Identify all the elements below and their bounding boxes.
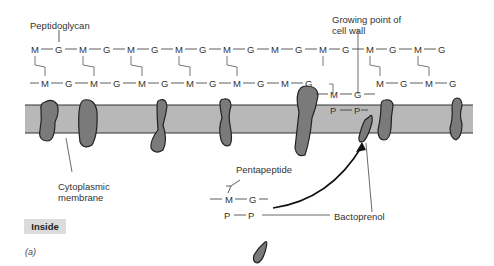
- peptidoglycan-label: Peptidoglycan: [30, 20, 90, 31]
- growing-point-label-line2: cell wall: [332, 25, 365, 36]
- svg-text:M: M: [271, 44, 279, 55]
- bactoprenol-carrier-free: [253, 242, 266, 263]
- svg-text:G: G: [65, 78, 72, 89]
- svg-text:M: M: [319, 44, 327, 55]
- svg-text:M: M: [79, 44, 87, 55]
- svg-text:M: M: [175, 44, 183, 55]
- svg-text:G: G: [247, 44, 254, 55]
- cytoplasmic-membrane-label-line1: Cytoplasmic: [58, 181, 110, 192]
- svg-text:G: G: [55, 44, 62, 55]
- svg-text:P: P: [354, 105, 360, 116]
- peptidoglycan-bottom-strand: M G M G M G M G M G M G: [30, 78, 312, 89]
- diagram-canvas: M G M G M G M G M G M G M G M G M G: [0, 0, 494, 266]
- svg-text:M: M: [233, 78, 241, 89]
- svg-text:M: M: [281, 78, 289, 89]
- growing-point-label-line1: Growing point of: [332, 14, 401, 25]
- svg-text:M: M: [225, 194, 233, 205]
- membrane-protein: [79, 100, 97, 147]
- peptidoglycan-bottom-strand-right: M G M G: [376, 78, 456, 89]
- svg-text:P: P: [248, 210, 254, 221]
- peptidoglycan-synthesis-diagram: M G M G M G M G M G M G M G M G M G: [0, 0, 494, 266]
- svg-text:G: G: [305, 78, 312, 89]
- svg-text:M: M: [127, 44, 135, 55]
- svg-text:G: G: [209, 78, 216, 89]
- membrane-protein: [220, 99, 232, 146]
- svg-text:M: M: [366, 44, 374, 55]
- svg-text:G: G: [161, 78, 168, 89]
- membrane-protein: [450, 98, 462, 140]
- svg-text:M: M: [330, 89, 338, 100]
- svg-text:G: G: [249, 194, 256, 205]
- svg-text:G: G: [389, 44, 396, 55]
- svg-text:G: G: [257, 78, 264, 89]
- svg-text:M: M: [376, 78, 384, 89]
- svg-text:M: M: [425, 78, 433, 89]
- svg-text:G: G: [438, 44, 445, 55]
- arrow-head: [356, 142, 366, 152]
- pentapeptide-label: Pentapeptide: [236, 164, 292, 175]
- transport-arrow: [273, 146, 362, 208]
- membrane-protein: [40, 100, 58, 141]
- svg-text:G: G: [449, 78, 456, 89]
- svg-text:M: M: [138, 78, 146, 89]
- svg-text:M: M: [223, 44, 231, 55]
- free-lipid-unit: M G P P: [210, 180, 268, 221]
- inside-label: Inside: [24, 219, 66, 234]
- svg-text:M: M: [414, 44, 422, 55]
- svg-text:M: M: [90, 78, 98, 89]
- svg-text:G: G: [295, 44, 302, 55]
- svg-text:M: M: [186, 78, 194, 89]
- figure-part-label: (a): [25, 247, 36, 257]
- svg-text:G: G: [400, 78, 407, 89]
- svg-text:G: G: [342, 44, 349, 55]
- bactoprenol-label: Bactoprenol: [334, 211, 385, 222]
- cytoplasmic-membrane-label-line2: membrane: [58, 192, 103, 203]
- svg-text:P: P: [330, 105, 336, 116]
- svg-text:G: G: [103, 44, 110, 55]
- svg-text:G: G: [113, 78, 120, 89]
- svg-text:M: M: [41, 78, 49, 89]
- svg-text:G: G: [199, 44, 206, 55]
- svg-text:M: M: [31, 44, 39, 55]
- svg-text:G: G: [151, 44, 158, 55]
- peptidoglycan-top-strand: M G M G M G M G M G M G M G M G M G: [31, 30, 445, 55]
- svg-text:P: P: [224, 210, 230, 221]
